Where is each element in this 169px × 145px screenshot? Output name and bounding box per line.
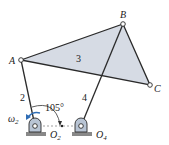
- coupler-link-3: [21, 24, 150, 85]
- label-link-3: 3: [76, 53, 81, 64]
- label-link-4: 4: [82, 92, 87, 103]
- angle-vertex-dot: [61, 125, 63, 127]
- label-o2: O2: [50, 129, 61, 142]
- label-c: C: [154, 83, 161, 94]
- label-a: A: [8, 55, 16, 66]
- label-link-2: 2: [20, 92, 25, 103]
- pivot-pin-o4: [79, 124, 84, 129]
- linkage-diagram: A B C 3 2 4 105° ω2 O2 O4: [0, 0, 169, 145]
- label-angle: 105°: [45, 102, 64, 113]
- joint-a: [19, 58, 24, 63]
- label-b: B: [120, 9, 126, 20]
- ground-pivot-o4: [72, 118, 92, 136]
- joint-c: [148, 83, 153, 88]
- label-omega: ω2: [8, 113, 19, 126]
- ground-pivot-o2: [26, 118, 46, 136]
- joint-b: [121, 22, 126, 27]
- pivot-pin-o2: [33, 124, 38, 129]
- label-o4: O4: [96, 129, 107, 142]
